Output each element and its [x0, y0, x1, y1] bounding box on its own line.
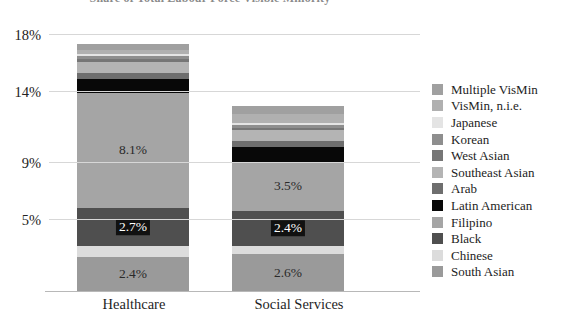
bar-segment[interactable]: 2.4%: [77, 257, 189, 291]
legend-item-label: Latin American: [451, 199, 532, 212]
legend-item[interactable]: Japanese: [432, 114, 571, 131]
y-tick-label: 9%: [22, 155, 41, 172]
legend-item-label: Japanese: [451, 116, 497, 129]
legend-item-label: Korean: [451, 133, 489, 146]
bar-segment[interactable]: [232, 147, 344, 162]
y-tick-label: 18%: [14, 27, 41, 44]
bar-segment[interactable]: [232, 106, 344, 114]
x-tick-label-social-services: Social Services: [204, 296, 394, 313]
chart-title: Share of Total Labour Force Visible Mino…: [0, 0, 420, 6]
y-tick-label: 5%: [22, 211, 41, 228]
y-tick-label: 14%: [14, 83, 41, 100]
gridline: [49, 34, 420, 35]
legend-item-label: VisMin, n.i.e.: [451, 99, 522, 112]
bar-segment[interactable]: 2.7%: [77, 208, 189, 246]
bar-segment[interactable]: [77, 50, 189, 54]
bar-segment[interactable]: [232, 130, 344, 141]
gridline: [49, 91, 420, 92]
bar-segment[interactable]: 8.1%: [77, 93, 189, 208]
legend-item[interactable]: Black: [432, 230, 571, 247]
bar-segment[interactable]: 2.6%: [232, 254, 344, 291]
legend-swatch-icon: [432, 217, 443, 228]
bar-segment-value-label: 3.5%: [271, 179, 305, 195]
legend-swatch-icon: [432, 250, 443, 261]
stacked-bar-chart: Share of Total Labour Force Visible Mino…: [0, 0, 571, 323]
bar-segment[interactable]: 2.4%: [232, 211, 344, 245]
legend-swatch-icon: [432, 266, 443, 277]
bar-segment-value-label: 8.1%: [116, 142, 150, 158]
legend-swatch-icon: [432, 117, 443, 128]
x-axis-baseline: [45, 291, 420, 292]
bar-segment[interactable]: [232, 123, 344, 125]
legend-swatch-icon: [432, 150, 443, 161]
legend: Multiple VisMinVisMin, n.i.e.JapaneseKor…: [432, 81, 571, 280]
x-tick-label-healthcare: Healthcare: [49, 296, 219, 313]
bar-segment[interactable]: [232, 128, 344, 131]
gridline: [49, 162, 420, 163]
legend-item[interactable]: Southeast Asian: [432, 164, 571, 181]
legend-swatch-icon: [432, 200, 443, 211]
legend-item[interactable]: Latin American: [432, 197, 571, 214]
legend-swatch-icon: [432, 84, 443, 95]
bar-segment-value-label: 2.4%: [116, 266, 150, 282]
bar-segment[interactable]: [77, 56, 189, 59]
bar-segment-value-label: 2.6%: [271, 265, 305, 281]
bar-segment[interactable]: [232, 246, 344, 255]
legend-swatch-icon: [432, 100, 443, 111]
legend-item-label: Southeast Asian: [451, 166, 534, 179]
legend-item-label: Arab: [451, 182, 477, 195]
bar-segment[interactable]: [77, 62, 189, 73]
legend-item-label: Chinese: [451, 249, 493, 262]
legend-item-label: Filipino: [451, 216, 492, 229]
legend-swatch-icon: [432, 233, 443, 244]
bar-social-services[interactable]: 2.6%2.4%3.5%: [232, 106, 344, 291]
legend-item[interactable]: Korean: [432, 131, 571, 148]
legend-swatch-icon: [432, 134, 443, 145]
gridline: [49, 219, 420, 220]
legend-item[interactable]: West Asian: [432, 147, 571, 164]
bar-segment[interactable]: [232, 141, 344, 147]
bar-segment-value-label: 2.4%: [271, 221, 305, 237]
bar-segment[interactable]: [77, 44, 189, 51]
legend-swatch-icon: [432, 183, 443, 194]
legend-swatch-icon: [432, 167, 443, 178]
bar-segment[interactable]: [232, 125, 344, 128]
legend-item[interactable]: Filipino: [432, 214, 571, 231]
legend-item[interactable]: VisMin, n.i.e.: [432, 98, 571, 115]
legend-item-label: Black: [451, 232, 481, 245]
legend-item[interactable]: Chinese: [432, 247, 571, 264]
legend-item-label: West Asian: [451, 149, 510, 162]
legend-item-label: South Asian: [451, 265, 514, 278]
legend-item-label: Multiple VisMin: [451, 83, 538, 96]
bar-segment[interactable]: [232, 114, 344, 123]
bar-segment[interactable]: 3.5%: [232, 162, 344, 212]
legend-item[interactable]: Arab: [432, 181, 571, 198]
y-axis: 5%9%14%18%: [0, 35, 45, 291]
plot-area: 2.4%2.7%8.1% 2.6%2.4%3.5%: [49, 35, 420, 291]
bar-segment[interactable]: [77, 54, 189, 57]
bar-segment-value-label: 2.7%: [116, 219, 150, 235]
legend-item[interactable]: South Asian: [432, 264, 571, 281]
bar-healthcare[interactable]: 2.4%2.7%8.1%: [77, 44, 189, 291]
bar-segment[interactable]: [77, 73, 189, 79]
bar-segment[interactable]: [77, 59, 189, 62]
legend-item[interactable]: Multiple VisMin: [432, 81, 571, 98]
bar-segment[interactable]: [77, 246, 189, 257]
